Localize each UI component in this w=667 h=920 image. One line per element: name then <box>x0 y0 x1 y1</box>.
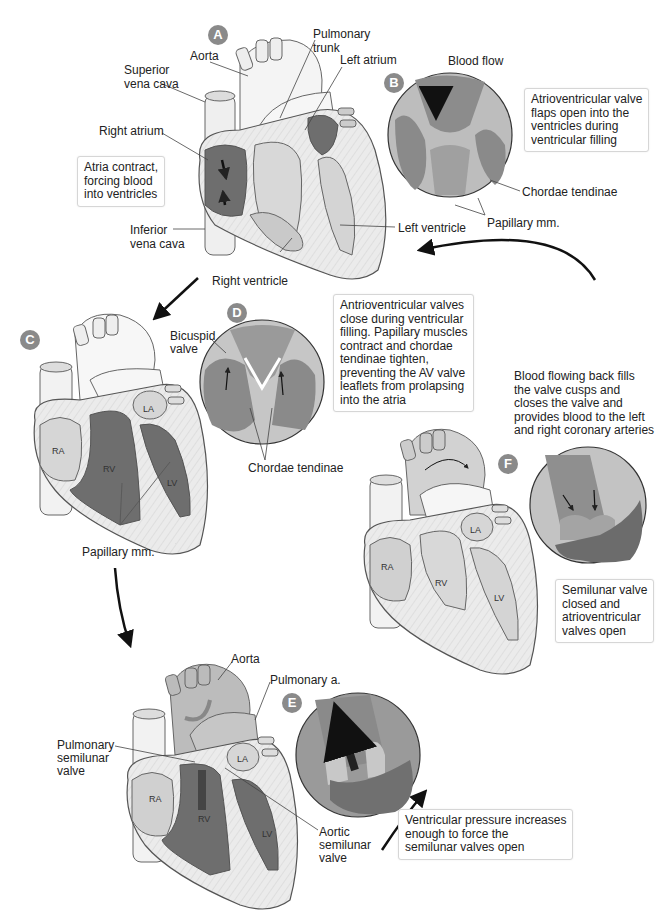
label-left-atrium: Left atrium <box>340 53 397 67</box>
panel-badge-b: B <box>384 73 404 93</box>
label-aortic-semilunar-valve: Aortic semilunar valve <box>319 826 371 865</box>
heart-a <box>199 38 386 279</box>
caption-b: Atrioventricular valve flaps open into t… <box>524 88 649 152</box>
magnifier-d <box>200 320 324 444</box>
text-blood-flowing-back: Blood flowing back fills the valve cusps… <box>514 370 654 438</box>
label-left-ventricle: Left ventricle <box>398 221 466 235</box>
magnifier-b <box>388 73 512 197</box>
chamber-lv-e: LV <box>262 827 272 841</box>
label-aorta: Aorta <box>190 49 219 63</box>
chamber-lv-f: LV <box>494 591 504 605</box>
label-right-atrium: Right atrium <box>99 124 164 138</box>
label-papillary-c: Papillary mm. <box>82 545 155 559</box>
chamber-la-e: LA <box>237 752 248 766</box>
chamber-la-f: LA <box>470 523 481 537</box>
label-bicuspid-valve: Bicuspid valve <box>170 330 215 356</box>
chamber-ra-f: RA <box>381 560 394 574</box>
caption-d: Antrioventricular valves close during ve… <box>333 294 474 412</box>
panel-badge-c: C <box>20 330 40 350</box>
label-chordae-tendinae-b: Chordae tendinae <box>522 185 617 199</box>
chamber-lv-c: LV <box>167 476 177 490</box>
label-pulmonary-a: Pulmonary a. <box>270 673 341 687</box>
panel-badge-e: E <box>282 693 302 713</box>
chamber-ra-e: RA <box>149 792 162 806</box>
label-pulmonary-trunk: Pulmonary trunk <box>313 27 370 55</box>
label-superior-vena-cava: Superior vena cava <box>124 63 179 91</box>
heart-e <box>127 664 297 909</box>
panel-badge-a: A <box>208 25 228 45</box>
magnifier-e <box>296 693 420 817</box>
caption-e: Ventricular pressure increases enough to… <box>398 809 573 860</box>
label-papillary-b: Papillary mm. <box>487 216 560 230</box>
chamber-la-c: LA <box>143 402 154 416</box>
label-inferior-vena-cava: Inferior vena cava <box>130 223 185 251</box>
caption-f: Semilunar valve closed and atrioventricu… <box>555 579 654 643</box>
label-chordae-tendinae-d: Chordae tendinae <box>248 461 343 475</box>
caption-a: Atria contract, forcing blood into ventr… <box>77 156 165 207</box>
chamber-rv-f: RV <box>435 576 447 590</box>
label-pulmonary-semilunar-valve: Pulmonary semilunar valve <box>57 739 114 778</box>
chamber-rv-e: RV <box>198 812 210 826</box>
panel-badge-f: F <box>498 454 518 474</box>
chamber-rv-c: RV <box>103 462 115 476</box>
label-blood-flow: Blood flow <box>448 54 503 68</box>
chamber-ra-c: RA <box>52 444 65 458</box>
label-aorta-e: Aorta <box>231 652 260 666</box>
panel-badge-d: D <box>227 303 247 323</box>
magnifier-f <box>530 447 646 563</box>
label-right-ventricle: Right ventricle <box>212 274 288 288</box>
